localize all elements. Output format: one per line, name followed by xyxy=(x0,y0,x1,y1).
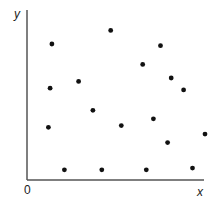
data-point xyxy=(99,167,104,172)
x-axis-label: x xyxy=(196,185,204,199)
data-point xyxy=(158,43,163,48)
data-point xyxy=(119,123,124,128)
scatter-chart: y 0 x xyxy=(0,0,218,206)
data-point xyxy=(140,62,145,67)
data-point xyxy=(76,79,81,84)
data-point xyxy=(181,88,186,93)
y-axis-label: y xyxy=(13,7,21,21)
data-point xyxy=(46,125,51,130)
data-point xyxy=(108,28,113,33)
data-point xyxy=(48,86,53,91)
data-point xyxy=(91,108,96,113)
data-point xyxy=(165,140,170,145)
data-point xyxy=(169,76,174,81)
data-point xyxy=(62,167,67,172)
data-point xyxy=(144,167,149,172)
data-point xyxy=(203,132,208,137)
data-point xyxy=(50,42,55,47)
origin-label: 0 xyxy=(24,183,31,197)
data-point xyxy=(190,166,195,171)
data-points xyxy=(46,28,207,172)
data-point xyxy=(151,116,156,121)
